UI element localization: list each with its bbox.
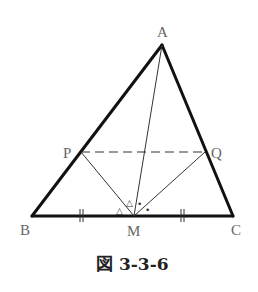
geometry-figure: △ △ • • A B C M P Q 図 3-3-6 xyxy=(0,0,258,292)
angle-mark-dot-qmc: • xyxy=(145,205,150,215)
figure-caption: 図 3-3-6 xyxy=(96,254,169,274)
angle-mark-triangle-pmb: △ xyxy=(116,206,123,216)
label-b: B xyxy=(20,222,30,238)
angle-mark-dot-amq: • xyxy=(137,199,142,209)
label-a: A xyxy=(157,24,168,40)
segment-ab xyxy=(32,45,162,216)
label-c: C xyxy=(231,222,241,238)
segment-am xyxy=(134,45,162,216)
segment-ac xyxy=(162,45,233,216)
label-m: M xyxy=(127,223,140,239)
angle-mark-triangle-pma: △ xyxy=(126,198,133,208)
triangle-abc xyxy=(32,45,233,216)
label-p: P xyxy=(63,145,71,161)
label-q: Q xyxy=(211,145,222,161)
